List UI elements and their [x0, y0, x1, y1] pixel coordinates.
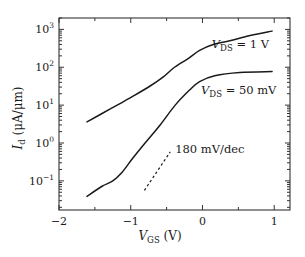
y-tick-labels: 10−1100101102103: [29, 21, 54, 187]
y-tick-label: 101: [35, 97, 54, 112]
y-tick-label: 100: [35, 135, 54, 150]
y-axis-label: Id (μA/μm): [11, 86, 27, 150]
annotation-vds-50mv: VDS = 50 mV: [201, 83, 277, 99]
x-tick-labels: −2−101: [51, 215, 278, 228]
y-tick-label: 103: [35, 21, 54, 36]
x-tick-label: −2: [51, 215, 67, 228]
x-tick-label: −1: [123, 215, 139, 228]
x-tick-label: 0: [199, 215, 206, 228]
chart: −2−101 10−1100101102103 VDS = 1 VVDS = 5…: [0, 0, 305, 257]
annotation-slope: 180 mV/dec: [175, 142, 244, 156]
x-axis-label: VGS (V): [138, 229, 181, 245]
annotation-vds-1v: VDS = 1 V: [212, 37, 270, 53]
slope-guide: [144, 152, 170, 190]
x-tick-label: 1: [271, 215, 278, 228]
annotations: VDS = 1 VVDS = 50 mV180 mV/dec: [175, 37, 277, 156]
series-lines: [87, 31, 272, 196]
y-tick-label: 10−1: [29, 173, 54, 188]
slope-guide-line: [144, 152, 170, 190]
y-tick-label: 102: [35, 59, 54, 74]
